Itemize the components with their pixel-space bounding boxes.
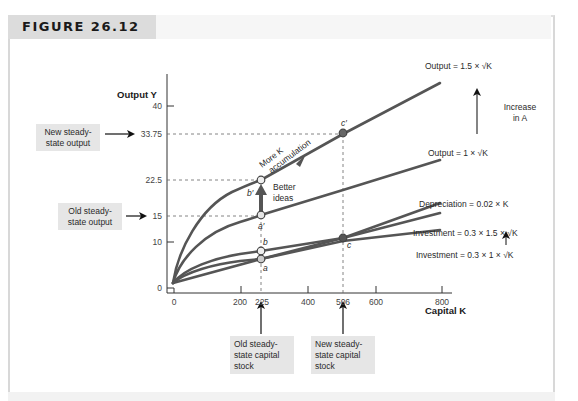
better-ideas-label-1: Better: [273, 182, 296, 192]
label-output-low: Output = 1 × √K: [428, 148, 488, 158]
point-label-c: c: [347, 240, 352, 250]
point-label-b: b: [263, 237, 268, 247]
old-capital-label-1: Old steady-: [234, 339, 278, 349]
label-investment-high: Investment = 0.3 × 1.5 × √K: [413, 228, 518, 238]
point-c-prime: [339, 129, 347, 137]
x-tick-200: 200: [233, 297, 247, 307]
x-tick-600: 600: [369, 297, 383, 307]
x-tick-400: 400: [301, 297, 315, 307]
curve-output-high: [173, 83, 440, 283]
old-output-label-1: Old steady-: [68, 206, 112, 216]
point-a: [257, 255, 265, 263]
y-tick-0: 0: [157, 283, 162, 293]
x-tick-800: 800: [435, 297, 449, 307]
y-tick-22-5: 22.5: [145, 175, 162, 185]
increase-in-a-label-2: in A: [513, 113, 528, 123]
point-label-a: a: [263, 263, 268, 273]
x-axis-ticks: [241, 286, 442, 293]
x-tick-225: 225: [255, 297, 269, 307]
point-label-a-prime: a′: [258, 221, 265, 231]
y-tick-15: 15: [153, 211, 163, 221]
increase-in-a-label-1: Increase: [504, 102, 537, 112]
x-tick-0: 0: [172, 297, 177, 307]
new-capital-label-1: New steady-: [315, 339, 362, 349]
old-capital-label-3: stock: [234, 361, 255, 371]
label-depreciation: Depreciation = 0.02 × K: [419, 199, 509, 209]
y-tick-40: 40: [153, 101, 163, 111]
point-label-b-prime: b′: [247, 188, 254, 198]
y-axis-title: Output Y: [117, 89, 158, 100]
point-b-prime: [257, 176, 265, 184]
better-ideas-label-2: ideas: [273, 193, 293, 203]
old-output-label-2: state output: [68, 217, 113, 227]
better-ideas-arrowhead-icon: [255, 184, 267, 195]
new-output-label-2: state output: [46, 138, 91, 148]
y-tick-33-75: 33.75: [141, 129, 163, 139]
label-investment-low: Investment = 0.3 × 1 × √K: [416, 250, 514, 260]
point-label-c-prime: c′: [341, 118, 347, 128]
y-tick-10: 10: [153, 237, 163, 247]
new-capital-label-2: state capital: [315, 350, 360, 360]
x-tick-506: 506: [336, 297, 350, 307]
new-capital-label-3: stock: [315, 361, 336, 371]
point-c: [339, 234, 347, 242]
point-b: [257, 247, 265, 255]
chart-canvas: Output Y Capital K 40 33.75 22.5 15 10 0…: [0, 0, 578, 401]
new-output-label-1: New steady-: [44, 127, 91, 137]
old-capital-label-2: state capital: [234, 350, 279, 360]
label-output-high: Output = 1.5 × √K: [425, 61, 492, 71]
curve-investment-low: [173, 230, 440, 283]
point-a-prime: [257, 211, 265, 219]
